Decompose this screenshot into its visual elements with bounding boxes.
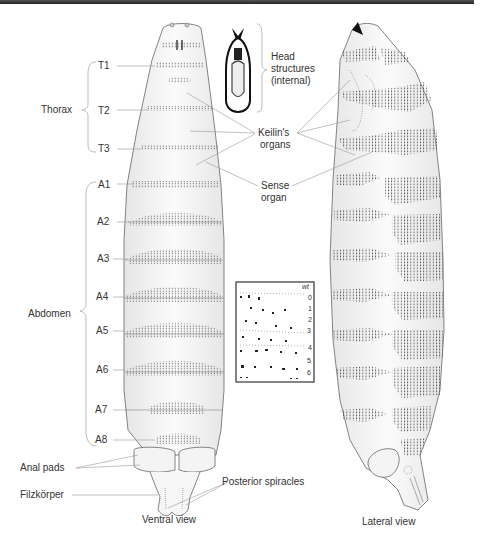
anal-pads-label: Anal pads [20,462,64,473]
denticle-inset [236,282,314,382]
segment-label-a4: A4 [96,291,108,302]
keilins-organs-label-2: organs [260,139,291,150]
segment-label-a6: A6 [96,364,108,375]
inset-row-1: 1 [308,305,312,312]
segment-label-a3: A3 [97,253,109,264]
thorax-label: Thorax [41,104,72,115]
inset-row-6: 6 [307,369,311,376]
segment-label-a5: A5 [96,325,108,336]
lateral-view-body [330,22,444,510]
head-structures-label-3: (internal) [271,75,310,86]
segment-label-t3: T3 [98,143,110,154]
keilins-organs-label-1: Keilin's [258,127,289,138]
head-structures-label-2: structures [271,63,315,74]
abdomen-label: Abdomen [28,308,71,319]
segment-label-t2: T2 [98,105,110,116]
sense-organ-label-1: Sense [261,180,289,191]
inset-row-0: 0 [308,294,312,301]
lateral-view-caption: Lateral view [362,516,415,527]
sense-organ-label-2: organ [261,192,287,203]
head-structures-label-1: Head [271,51,295,62]
inset-row-3: 3 [307,327,311,334]
ventral-view-body [124,23,224,516]
head-structures-illustration [226,24,267,112]
inset-row-4: 4 [308,344,312,351]
thorax-bracket [82,62,96,152]
filzkorper-label: Filzkörper [20,489,64,500]
segment-label-a7: A7 [95,404,107,415]
segment-label-a2: A2 [97,216,109,227]
inset-row-5: 5 [307,357,311,364]
ventral-view-caption: Ventral view [142,514,196,525]
segment-label-a1: A1 [98,179,110,190]
posterior-spiracles-label: Posterior spiracles [222,476,304,487]
segment-label-t1: T1 [98,60,110,71]
segment-label-a8: A8 [95,434,107,445]
larva-illustration [0,0,481,536]
inset-row-2: 2 [308,316,312,323]
inset-title: wt [302,283,309,290]
abdomen-bracket [80,182,96,446]
